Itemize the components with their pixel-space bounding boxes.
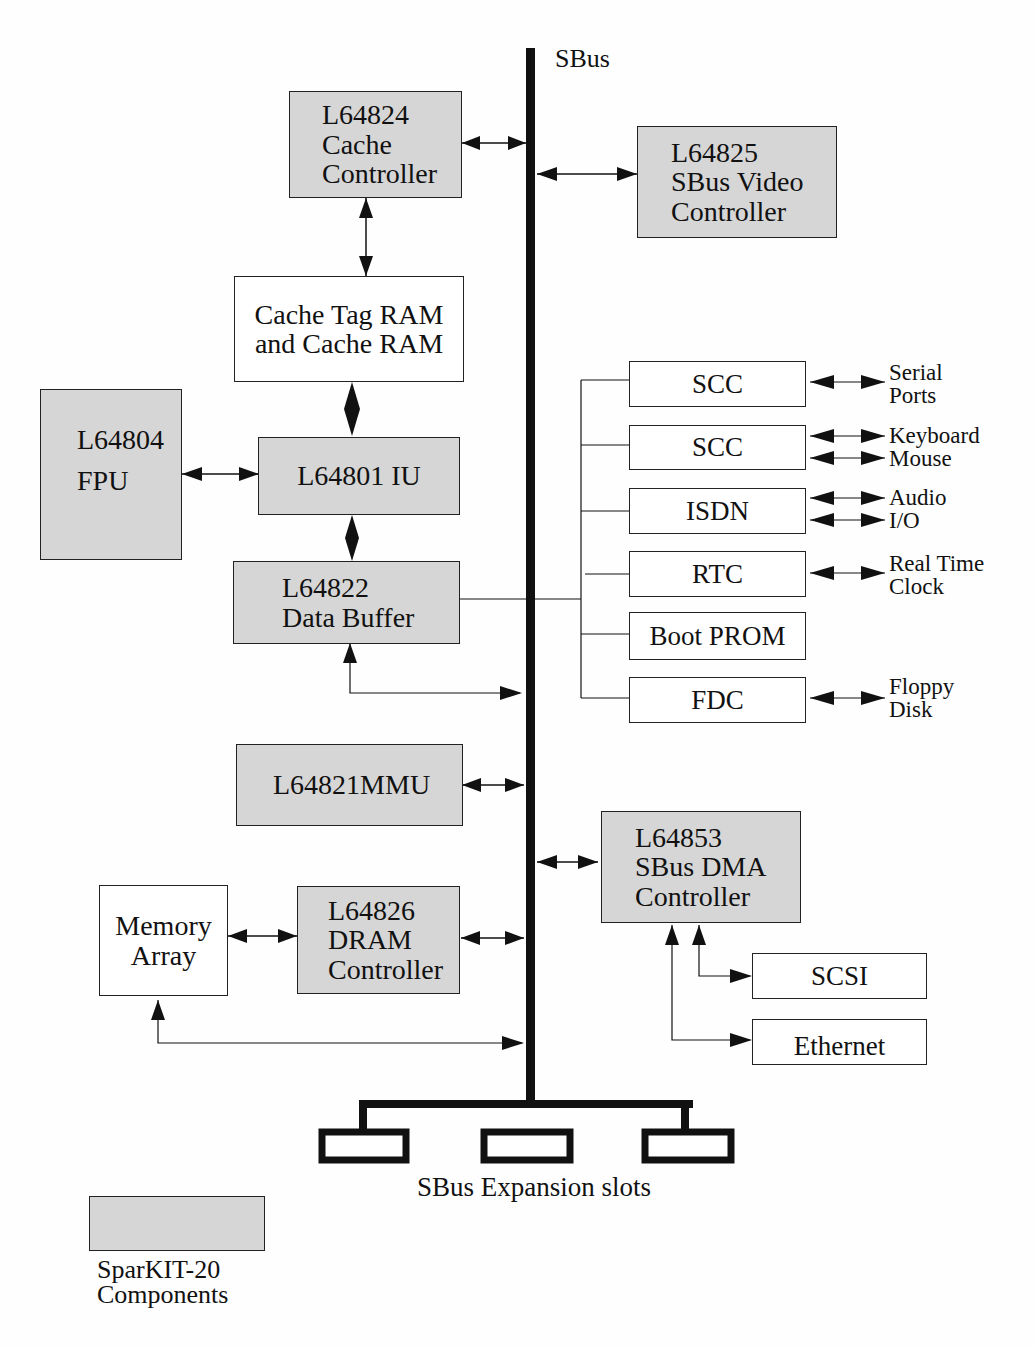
component-label: L64804 [77, 420, 181, 461]
fpu-box: L64804 FPU [40, 389, 182, 560]
component-label: FPU [77, 461, 181, 502]
component-label: SCC [692, 370, 743, 398]
peripheral-box-boot-prom: Boot PROM [629, 612, 806, 660]
peripheral-box-scc-2: SCC [629, 425, 806, 470]
component-label: L64824 [322, 100, 461, 129]
peripheral-box-fdc: FDC [629, 677, 806, 723]
component-label: FDC [691, 686, 744, 714]
peripheral-box-scc-1: SCC [629, 361, 806, 407]
external-label-floppy-disk: FloppyDisk [889, 675, 954, 722]
component-label: Boot PROM [650, 622, 786, 650]
component-label: Array [131, 941, 196, 970]
component-label: Controller [635, 882, 800, 911]
peripheral-box-rtc: RTC [629, 551, 806, 597]
external-label-keyboard-mouse: KeyboardMouse [889, 424, 980, 471]
component-label: Ethernet [794, 1032, 885, 1060]
cache-controller-box: L64824 Cache Controller [289, 91, 462, 198]
connection-lines [0, 0, 1034, 1348]
component-label: L64825 [671, 138, 836, 167]
external-label-real-time-clock: Real TimeClock [889, 552, 984, 599]
sbus-label: SBus [555, 46, 610, 73]
component-label: Controller [322, 159, 461, 188]
legend-label: SparKIT-20Components [97, 1258, 228, 1307]
data-buffer-box: L64822 Data Buffer [233, 561, 460, 644]
expansion-slot-2 [484, 1132, 570, 1160]
component-label: L64821MMU [273, 770, 462, 799]
legend-swatch [89, 1196, 265, 1251]
dram-controller-box: L64826 DRAM Controller [297, 886, 460, 994]
component-label: ISDN [686, 497, 749, 525]
sbus-line [526, 48, 535, 1108]
component-label: Cache Tag RAM [255, 300, 444, 329]
mmu-box: L64821MMU [236, 744, 463, 826]
component-label: Controller [328, 955, 459, 984]
component-label: SBus Video [671, 167, 836, 196]
component-label: Controller [671, 197, 836, 226]
component-label: L64853 [635, 823, 800, 852]
video-controller-box: L64825 SBus Video Controller [637, 126, 837, 238]
component-label: DRAM [328, 925, 459, 954]
component-label: L64801 IU [297, 461, 421, 490]
expansion-slots-label: SBus Expansion slots [417, 1174, 651, 1202]
dma-controller-box: L64853 SBus DMA Controller [601, 811, 801, 923]
peripheral-box-isdn: ISDN [629, 488, 806, 534]
component-label: SCC [692, 433, 743, 461]
component-label: L64826 [328, 896, 459, 925]
expansion-slot-1 [322, 1132, 406, 1160]
external-label-audio-io: AudioI/O [889, 486, 947, 533]
component-label: Data Buffer [282, 603, 459, 632]
expansion-slot-3 [645, 1132, 731, 1160]
component-label: SCSI [811, 962, 868, 990]
external-label-serial-ports: SerialPorts [889, 361, 943, 408]
iu-box: L64801 IU [258, 437, 460, 515]
component-label: L64822 [282, 573, 459, 602]
component-label: RTC [692, 560, 743, 588]
component-label: Memory [115, 911, 211, 940]
scsi-box: SCSI [752, 953, 927, 999]
sparkit-block-diagram: SBus L64824 Cache Controller L64825 SBus… [0, 0, 1034, 1348]
component-label: SBus DMA [635, 852, 800, 881]
component-label: Cache [322, 130, 461, 159]
ethernet-box: Ethernet [752, 1019, 927, 1065]
component-label: and Cache RAM [255, 329, 443, 358]
memory-array-box: Memory Array [99, 885, 228, 996]
cache-ram-box: Cache Tag RAM and Cache RAM [234, 276, 464, 382]
